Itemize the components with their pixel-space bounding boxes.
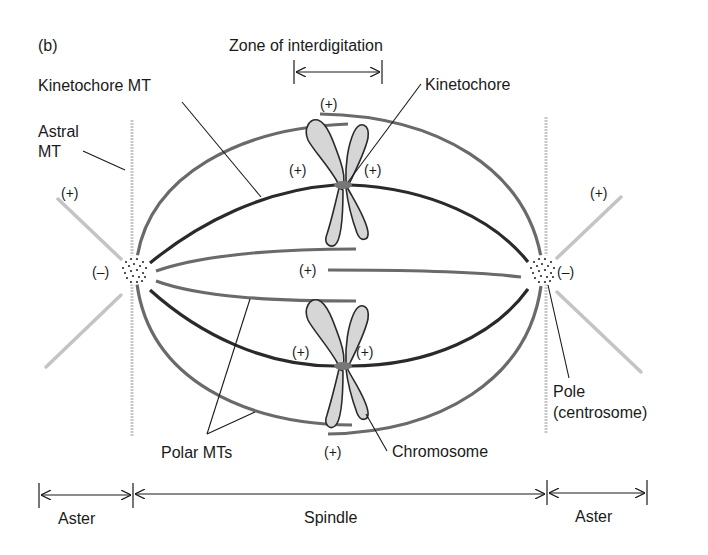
astral-mt-left-upper <box>58 199 121 259</box>
astral-mt-right-upper <box>557 197 621 258</box>
polar-mt-mid-right <box>328 270 521 277</box>
leader-kinetochore-mt <box>182 102 261 197</box>
pole-label-line1: Pole <box>553 383 585 401</box>
plus-end-astral-left: (+) <box>61 184 79 202</box>
plus-end-top: (+) <box>320 95 338 113</box>
plus-end-lower-right: (+) <box>356 343 374 361</box>
chromosome-lower <box>306 300 368 428</box>
plus-end-upper-left: (+) <box>289 161 307 179</box>
aster-left-label: Aster <box>58 510 95 528</box>
kinetochore-mt-label: Kinetochore MT <box>38 77 151 95</box>
leader-astral-mt <box>83 151 125 170</box>
plus-end-astral-right: (+) <box>590 184 608 202</box>
chromosome-label: Chromosome <box>392 443 488 461</box>
astral-mt-right-lower <box>557 292 641 372</box>
astral-mt-label-line2: MT <box>38 143 61 161</box>
aster-right-label: Aster <box>575 508 612 526</box>
plus-end-lower-left: (+) <box>292 343 310 361</box>
polar-mts-inner <box>156 249 521 301</box>
astral-mt-left-lower <box>46 295 121 367</box>
astral-mt-label-line1: Astral <box>38 123 79 141</box>
kinetochore-label: Kinetochore <box>425 76 510 94</box>
leader-polar-mt-1 <box>207 299 250 434</box>
plus-end-upper-right: (+) <box>364 161 382 179</box>
spindle-label: Spindle <box>304 509 357 527</box>
minus-end-left: (–) <box>92 263 109 281</box>
polar-mt-mid-left-upper <box>156 249 356 271</box>
mitotic-spindle-diagram: (b) Zone of interdigitation Kinetochore … <box>0 0 708 555</box>
plus-end-bottom: (+) <box>324 443 342 461</box>
centrosome-left <box>120 255 150 285</box>
kinetochore-lower <box>334 362 352 370</box>
polar-mts-label: Polar MTs <box>161 444 232 462</box>
region-brackets <box>39 480 647 508</box>
chromosome-upper <box>306 120 368 246</box>
zone-bracket <box>294 60 382 84</box>
leader-polar-mt-2 <box>207 412 255 434</box>
kinetochore-mt-lower-right <box>350 289 528 366</box>
kinetochore-upper <box>334 181 352 189</box>
centrosome-right <box>528 255 558 285</box>
minus-end-right: (–) <box>557 263 574 281</box>
panel-label: (b) <box>38 37 58 55</box>
plus-end-middle: (+) <box>299 261 317 279</box>
polar-mt-mid-left-lower <box>156 281 356 301</box>
zone-of-interdigitation-label: Zone of interdigitation <box>229 37 383 55</box>
kinetochore-mt-upper-right <box>350 185 528 262</box>
pole-label-line2: (centrosome) <box>553 404 647 422</box>
